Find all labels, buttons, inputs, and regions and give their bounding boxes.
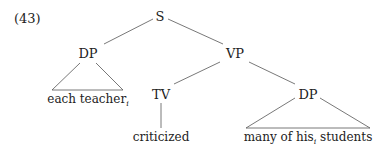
node-s: S bbox=[156, 10, 165, 23]
leaf-object: many of hisi students bbox=[244, 131, 373, 146]
subject-text: each teacher bbox=[47, 92, 126, 106]
node-dp-object: DP bbox=[298, 88, 317, 101]
leaf-verb: criticized bbox=[133, 131, 190, 143]
node-dp-subject: DP bbox=[78, 47, 97, 60]
object-post: students bbox=[316, 130, 372, 144]
leaf-subject: each teacheri bbox=[47, 93, 128, 108]
subject-index: i bbox=[126, 99, 129, 108]
node-vp: VP bbox=[226, 47, 244, 60]
node-tv: TV bbox=[152, 88, 170, 101]
object-pre: many of his bbox=[244, 130, 314, 144]
tree-edges bbox=[0, 0, 384, 149]
